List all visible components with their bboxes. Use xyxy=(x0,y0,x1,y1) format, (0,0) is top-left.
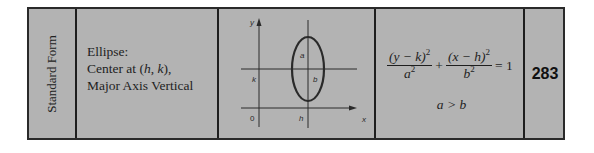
center-h: h xyxy=(144,61,151,76)
ellipse-diagram-cell: y x 0 k h a b xyxy=(219,9,376,138)
b-label: b xyxy=(313,75,318,84)
ellipse-diagram: y x 0 k h a b xyxy=(219,9,376,138)
exponent: 2 xyxy=(470,64,475,74)
numerator-y: (y − k) xyxy=(389,49,426,64)
origin-label: 0 xyxy=(250,114,255,123)
description-center: Center at (h, k), xyxy=(87,60,193,77)
y-axis-label: y xyxy=(249,18,255,27)
exponent: 2 xyxy=(411,64,416,74)
x-axis-label: x xyxy=(361,115,367,124)
y-axis-arrow-icon xyxy=(257,18,262,26)
a-label: a xyxy=(300,51,305,60)
fraction-x: (x − h)2 b2 xyxy=(446,49,492,82)
denominator-a: a xyxy=(404,66,411,81)
numerator-x: (x − h) xyxy=(448,49,486,64)
description-title: Ellipse: xyxy=(87,43,193,60)
page-number-cell: 283 xyxy=(527,9,563,138)
row-label-cell: Standard Form xyxy=(29,9,75,138)
center-prefix: Center at ( xyxy=(87,61,144,76)
fraction-y: (y − k)2 a2 xyxy=(387,49,432,82)
plus-sign: + xyxy=(432,58,446,73)
h-label: h xyxy=(299,114,304,123)
conic-section-table-row: Standard Form Ellipse: Center at (h, k),… xyxy=(27,7,565,140)
k-label: k xyxy=(252,75,257,84)
description-cell: Ellipse: Center at (h, k), Major Axis Ve… xyxy=(87,43,193,94)
exponent: 2 xyxy=(486,47,491,57)
ellipse-equation: (y − k)2 a2 + (x − h)2 b2 = 1 xyxy=(387,49,516,82)
equation-cell: (y − k)2 a2 + (x − h)2 b2 = 1 a > b xyxy=(378,9,525,138)
description-axis: Major Axis Vertical xyxy=(87,77,193,94)
x-axis-arrow-icon xyxy=(349,106,357,111)
page-number: 283 xyxy=(532,65,559,83)
center-suffix: ), xyxy=(163,61,171,76)
equals-one: = 1 xyxy=(492,58,516,73)
condition: a > b xyxy=(378,97,525,113)
row-label: Standard Form xyxy=(44,35,60,113)
column-divider xyxy=(75,9,77,138)
exponent: 2 xyxy=(426,47,431,57)
